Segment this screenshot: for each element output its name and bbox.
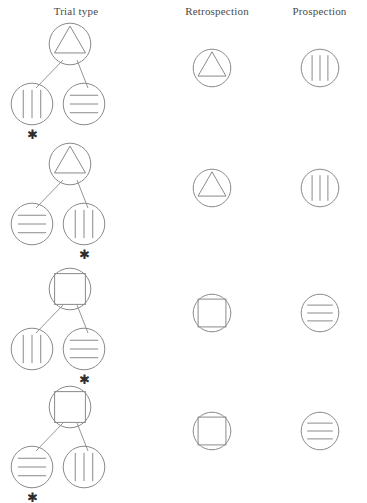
prospection-node[interactable] [300, 168, 340, 208]
prospection-node[interactable] [300, 48, 340, 88]
prospection-node[interactable] [300, 293, 340, 333]
tree-node-parent[interactable] [48, 22, 92, 66]
tree-node-left-child[interactable] [10, 327, 54, 371]
target-asterisk-right: ✱ [62, 248, 106, 261]
trial-row: ✱ ✱ [0, 140, 367, 258]
trial-tree: ✱ ✱ [0, 383, 152, 501]
tree-node-left-child[interactable] [10, 202, 54, 246]
trial-tree: ✱ ✱ [0, 20, 152, 138]
column-header-prospection: Prospection [272, 0, 367, 22]
column-header-trial-type: Trial type [0, 0, 152, 22]
tree-node-left-child[interactable] [10, 82, 54, 126]
tree-node-right-child[interactable] [62, 202, 106, 246]
retrospection-node[interactable] [192, 168, 232, 208]
tree-node-right-child[interactable] [62, 445, 106, 489]
trial-tree: ✱ ✱ [0, 140, 152, 258]
tree-node-left-child[interactable] [10, 445, 54, 489]
trial-tree: ✱ ✱ [0, 265, 152, 383]
tree-node-parent[interactable] [48, 385, 92, 429]
column-header-row: Trial type Retrospection Prospection [0, 0, 367, 22]
tree-node-right-child[interactable] [62, 82, 106, 126]
retrospection-node[interactable] [192, 48, 232, 88]
tree-node-parent[interactable] [48, 267, 92, 311]
target-asterisk-left: ✱ [10, 491, 54, 503]
column-header-retrospection: Retrospection [162, 0, 272, 22]
trial-row: ✱ ✱ [0, 383, 367, 501]
trial-row: ✱ ✱ [0, 20, 367, 138]
tree-node-parent[interactable] [48, 142, 92, 186]
tree-node-right-child[interactable] [62, 327, 106, 371]
retrospection-node[interactable] [192, 293, 232, 333]
prospection-node[interactable] [300, 411, 340, 451]
retrospection-node[interactable] [192, 411, 232, 451]
trial-row: ✱ ✱ [0, 265, 367, 383]
